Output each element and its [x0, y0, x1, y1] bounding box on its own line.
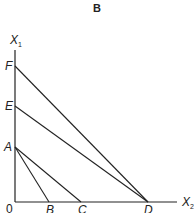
y-axis-label: X1: [10, 34, 22, 46]
point-d-label: D: [144, 204, 153, 213]
line-e-d: [15, 106, 148, 202]
x-axis-label: X2: [182, 196, 194, 208]
point-c-label: C: [78, 204, 87, 213]
line-a-b: [15, 147, 49, 202]
point-b-label: B: [46, 204, 54, 213]
point-e-label: E: [5, 100, 13, 112]
line-f-d: [15, 66, 148, 202]
budget-lines-diagram: [0, 0, 194, 213]
point-f-label: F: [5, 60, 12, 72]
line-a-c: [15, 147, 81, 202]
point-a-label: A: [4, 141, 12, 153]
origin-label: 0: [6, 203, 13, 213]
